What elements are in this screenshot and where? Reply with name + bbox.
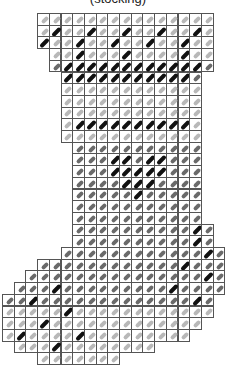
- stocking-stitch-chart: [0, 0, 236, 363]
